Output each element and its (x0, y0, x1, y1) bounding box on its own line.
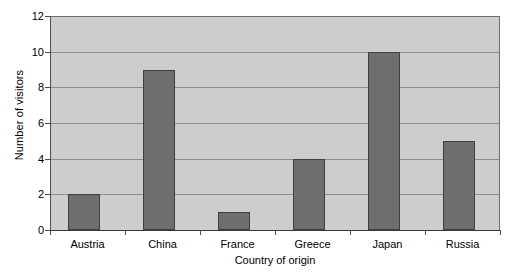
bar[interactable] (368, 52, 400, 230)
x-axis-category-label: Japan (350, 238, 425, 251)
bar[interactable] (143, 70, 175, 231)
bars-layer (50, 16, 500, 230)
x-axis-category-label: Greece (275, 238, 350, 251)
y-axis-tick-mark (45, 16, 50, 17)
x-axis-tick-mark (50, 230, 51, 235)
x-axis-tick-mark (500, 230, 501, 235)
x-axis-tick-mark (425, 230, 426, 235)
y-axis-tick-mark (45, 159, 50, 160)
bar[interactable] (443, 141, 475, 230)
x-axis-tick-mark (275, 230, 276, 235)
x-axis-category-label: Russia (425, 238, 500, 251)
y-axis-tick-mark (45, 87, 50, 88)
x-axis-category-label: Austria (50, 238, 125, 251)
x-axis-title: Country of origin (50, 254, 500, 267)
x-axis-tick-mark (350, 230, 351, 235)
bar[interactable] (293, 159, 325, 230)
bar[interactable] (68, 194, 100, 230)
x-axis-tick-mark (200, 230, 201, 235)
y-axis-tick-mark (45, 52, 50, 53)
y-axis-title: Number of visitors (12, 0, 26, 230)
x-axis-category-label: China (125, 238, 200, 251)
y-axis-tick-mark (45, 194, 50, 195)
x-axis-category-label: France (200, 238, 275, 251)
y-axis-tick-mark (45, 123, 50, 124)
bar-chart-figure: 024681012 Number of visitors AustriaChin… (0, 0, 517, 280)
x-axis-tick-mark (125, 230, 126, 235)
bar[interactable] (218, 212, 250, 230)
